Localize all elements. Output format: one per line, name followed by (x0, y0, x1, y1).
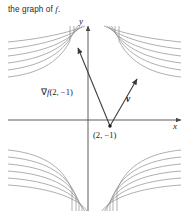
level-curves-upper-left (8, 26, 85, 77)
level-curves-group (8, 26, 181, 211)
gradient-vector (78, 48, 110, 126)
figure-page: the graph of f. (0, 0, 189, 212)
base-point-dot (108, 124, 111, 127)
level-curves-upper-right (104, 26, 181, 77)
v-vector-label: v (126, 95, 130, 105)
level-curve-figure (0, 0, 189, 212)
y-axis-label: y (79, 17, 83, 26)
base-point-label: (2, −1) (93, 131, 116, 140)
vectors-group (78, 48, 137, 128)
x-axis-label: x (173, 122, 177, 131)
level-curves-lower-right (102, 150, 181, 211)
level-curves-lower-left (8, 150, 87, 211)
v-vector (110, 79, 137, 126)
axes-group (8, 26, 181, 211)
gradient-args: (2, −1) (49, 87, 72, 97)
gradient-vector-label: ∇f(2, −1) (41, 88, 73, 97)
